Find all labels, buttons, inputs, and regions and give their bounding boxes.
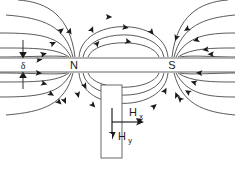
- field-line-left-lower-3: [0, 73, 71, 97]
- hy-label-subscript: y: [128, 136, 132, 145]
- field-lines-right-outer: [172, 0, 235, 57]
- field-diagram-figure: δ N S: [0, 0, 235, 169]
- field-line-right-lower-2: [178, 73, 235, 82]
- hx-label-subscript: x: [139, 112, 143, 121]
- field-line-upper-3: [88, 43, 159, 57]
- field-diagram-svg: δ N S: [0, 0, 235, 169]
- field-line-lower-2: [83, 73, 164, 95]
- field-line-right-lower-1: [180, 73, 235, 74]
- hx-label: H: [129, 106, 137, 118]
- south-pole-label: S: [168, 59, 175, 71]
- hy-label: H: [118, 130, 126, 142]
- field-line-left-upper-3: [0, 33, 71, 57]
- field-line-upper-2: [83, 35, 164, 57]
- gap-thickness-label: δ: [21, 60, 26, 71]
- field-line-lower-1: [79, 73, 168, 103]
- recording-medium: [0, 58, 235, 72]
- field-line-left-lower-4: [6, 73, 73, 115]
- field-lines-upper-inner: [79, 14, 168, 57]
- field-line-left-upper-5: [0, 56, 67, 57]
- field-line-lower-3: [88, 73, 159, 87]
- north-pole-label: N: [70, 59, 78, 71]
- field-lines-left-lower: [0, 70, 73, 115]
- field-line-left-lower-1: [0, 73, 67, 74]
- field-line-left-lower-2: [0, 73, 69, 82]
- field-line-left-upper-4: [0, 48, 69, 57]
- field-lines-left-outer: [0, 0, 75, 63]
- field-lines-right-lower: [173, 70, 235, 115]
- field-line-right-upper-5: [180, 56, 235, 57]
